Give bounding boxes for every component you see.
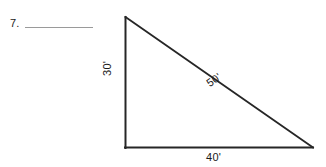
label-vertical-leg: 30' — [102, 61, 113, 76]
label-base-leg: 40' — [206, 152, 221, 163]
triangle-figure: 30' 50' 40' — [0, 0, 326, 167]
worksheet-page: 7. 30' 50' 40' — [0, 0, 326, 167]
right-triangle-icon — [0, 0, 326, 167]
